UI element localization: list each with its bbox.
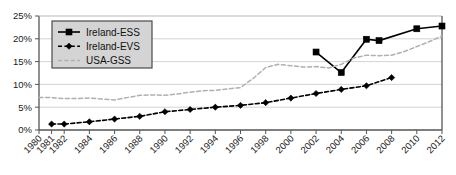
x-axis-tick-label: 1984 <box>72 133 95 156</box>
x-axis-tick-label: 2010 <box>399 133 422 156</box>
legend-item-label: Ireland-EVS <box>86 41 140 52</box>
y-axis-tick-label: 20% <box>13 33 33 44</box>
x-axis-tick-label: 2002 <box>298 133 321 156</box>
chart-legend: Ireland-ESSIreland-EVSUSA-GSS <box>52 21 152 68</box>
x-axis-tick-label: 1998 <box>248 133 271 156</box>
y-axis-tick-labels: 0%5%10%15%20%25% <box>13 10 33 135</box>
y-axis-tick-label: 10% <box>13 79 33 90</box>
x-axis-tick-label: 1994 <box>197 133 220 156</box>
data-point-marker <box>376 38 382 44</box>
legend-item-label: USA-GSS <box>86 55 131 66</box>
x-axis-tick-label: 2004 <box>323 133 346 156</box>
x-axis-tick-label: 2012 <box>424 133 447 156</box>
x-axis-tick-label: 2006 <box>349 133 372 156</box>
legend-item-label: Ireland-ESS <box>86 27 140 38</box>
x-axis-tick-label: 1992 <box>172 133 195 156</box>
data-point-marker <box>414 26 420 32</box>
x-axis-tick-label: 1986 <box>97 133 120 156</box>
x-axis-tick-label: 1988 <box>122 133 145 156</box>
x-axis-tick-label: 2008 <box>374 133 397 156</box>
data-point-marker <box>439 23 445 29</box>
x-axis-tick-label: 2000 <box>273 133 296 156</box>
x-axis-tick-labels: 1980198119821984198619881990199219941996… <box>21 133 447 156</box>
data-point-marker <box>338 70 344 76</box>
data-point-marker <box>363 36 369 42</box>
chart-container: 0%5%10%15%20%25% 19801981198219841986198… <box>0 0 456 175</box>
x-axis-tick-label: 1996 <box>223 133 246 156</box>
data-point-marker <box>313 49 319 55</box>
x-axis-tick-label: 1990 <box>147 133 170 156</box>
y-axis-tick-label: 5% <box>18 102 32 113</box>
y-axis-tick-label: 0% <box>18 124 32 135</box>
line-chart: 0%5%10%15%20%25% 19801981198219841986198… <box>0 0 456 175</box>
legend-marker <box>66 29 72 35</box>
y-axis-tick-label: 25% <box>13 10 33 21</box>
y-axis-tick-label: 15% <box>13 56 33 67</box>
